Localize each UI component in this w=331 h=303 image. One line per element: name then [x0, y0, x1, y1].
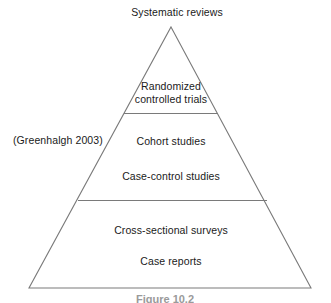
- level-label-systematic-reviews: Systematic reviews: [131, 6, 223, 19]
- rct-label-line-1: Randomized: [141, 80, 201, 92]
- rct-label-line-2: controlled trials: [135, 93, 207, 105]
- level-label-cohort-studies: Cohort studies: [136, 135, 205, 148]
- level-label-randomized-controlled-trials: Randomized controlled trials: [119, 80, 223, 105]
- pyramid-outline: [29, 27, 311, 288]
- level-label-cross-sectional-surveys: Cross-sectional surveys: [114, 224, 228, 237]
- level-label-case-control-studies: Case-control studies: [122, 170, 220, 183]
- figure-caption: Figure 10.2: [136, 293, 194, 303]
- evidence-pyramid-figure: Systematic reviews Randomized controlled…: [0, 0, 331, 303]
- level-label-case-reports: Case reports: [140, 255, 201, 268]
- source-citation: (Greenhalgh 2003): [13, 134, 103, 147]
